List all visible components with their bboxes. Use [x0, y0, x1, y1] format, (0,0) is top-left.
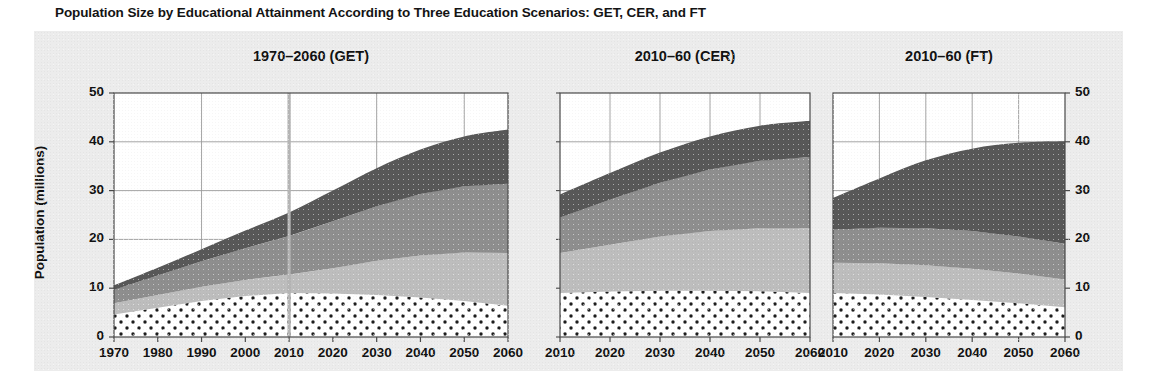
x-tick-label: 2010 — [266, 345, 312, 360]
y-tick-label-right: 20 — [1075, 230, 1109, 245]
y-tick-label-left: 40 — [70, 133, 104, 148]
area-layer-1 — [560, 291, 810, 337]
x-tick-label: 1980 — [135, 345, 181, 360]
x-tick-label: 2060 — [1042, 345, 1088, 360]
y-tick-label-right: 0 — [1075, 328, 1109, 343]
y-tick-label-left: 10 — [70, 279, 104, 294]
y-tick-label-right: 40 — [1075, 133, 1109, 148]
x-tick-label: 2040 — [949, 345, 995, 360]
panel-get — [109, 93, 508, 342]
y-tick-label-right: 50 — [1075, 84, 1109, 99]
chart-canvas — [34, 31, 1123, 371]
x-tick-label: 2020 — [856, 345, 902, 360]
x-tick-label: 2010 — [810, 345, 856, 360]
x-tick-label: 2030 — [637, 345, 683, 360]
y-tick-label-left: 0 — [70, 328, 104, 343]
x-tick-label: 2020 — [587, 345, 633, 360]
y-tick-label-left: 20 — [70, 230, 104, 245]
x-tick-label: 2010 — [537, 345, 583, 360]
x-tick-label: 2050 — [737, 345, 783, 360]
figure-root: Population Size by Educational Attainmen… — [0, 0, 1151, 379]
figure-plate: 1970–2060 (GET) 2010–60 (CER) 2010–60 (F… — [34, 31, 1123, 371]
x-tick-label: 2000 — [222, 345, 268, 360]
figure-title: Population Size by Educational Attainmen… — [55, 5, 706, 20]
x-tick-label: 1970 — [91, 345, 137, 360]
x-tick-label: 2050 — [996, 345, 1042, 360]
x-tick-label: 2030 — [903, 345, 949, 360]
x-tick-label: 2030 — [354, 345, 400, 360]
x-tick-label: 1990 — [179, 345, 225, 360]
y-tick-label-right: 30 — [1075, 182, 1109, 197]
panel-ft — [833, 93, 1070, 342]
y-tick-label-right: 10 — [1075, 279, 1109, 294]
y-tick-label-left: 50 — [70, 84, 104, 99]
x-tick-label: 2020 — [310, 345, 356, 360]
panel-cer — [556, 93, 810, 342]
x-tick-label: 2050 — [441, 345, 487, 360]
x-tick-label: 2060 — [485, 345, 531, 360]
y-tick-label-left: 30 — [70, 182, 104, 197]
x-tick-label: 2040 — [687, 345, 733, 360]
x-tick-label: 2040 — [397, 345, 443, 360]
